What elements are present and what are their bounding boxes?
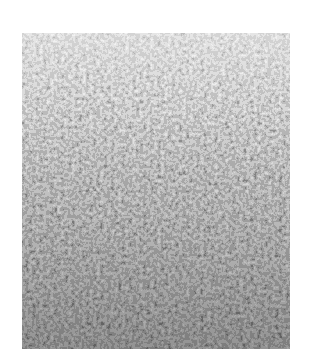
grain-texture: [22, 33, 290, 349]
grain-texture-photo: [22, 33, 290, 349]
